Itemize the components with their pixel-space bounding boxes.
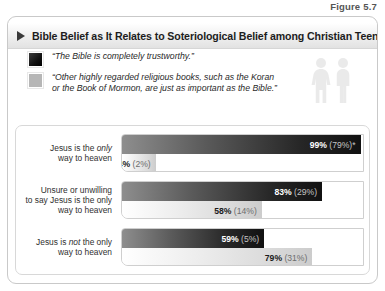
category-label: Jesus is the onlyway to heaven: [16, 143, 112, 163]
figure-caption: Figure 5.7: [330, 1, 377, 12]
triangle-right-icon: [17, 31, 25, 41]
bar-value-primary: 58%: [214, 206, 231, 216]
figure-root: Figure 5.7 Bible Belief as It Relates to…: [0, 0, 385, 291]
bar-value-primary: 79%: [265, 253, 282, 263]
bar-value-primary: 99%: [310, 140, 327, 150]
bar-light: 79% (31%): [122, 248, 312, 266]
bar-light: 58% (14%): [122, 201, 262, 219]
legend-label: “The Bible is completely trustworthy.”: [52, 51, 194, 62]
bar-value-primary: 83%: [274, 187, 291, 197]
bar-value-secondary: (79%)*: [329, 140, 355, 150]
bar-track: 83% (29%) 58% (14%): [121, 181, 364, 219]
chart-panel: Jesus is the onlyway to heaven 99% (79%)…: [15, 125, 370, 275]
bar-dark: 83% (29%): [122, 182, 322, 201]
legend-swatch-dark: [28, 52, 43, 67]
two-people-icon: [307, 57, 359, 105]
figure-card: Bible Belief as It Relates to Soteriolog…: [7, 16, 378, 284]
bar-value-label: 79% (31%): [265, 253, 308, 263]
bar-track: 59% (5%) 79% (31%): [121, 228, 364, 266]
bar-value-label: 14% (2%): [121, 159, 151, 169]
bar-value-label: 58% (14%): [214, 206, 257, 216]
bar-dark: 99% (79%)*: [122, 135, 361, 154]
bar-light: 14% (2%): [122, 154, 156, 172]
page-title: Bible Belief as It Relates to Soteriolog…: [32, 30, 378, 42]
bar-value-secondary: (14%): [234, 206, 257, 216]
legend-item: “Other highly regarded religious books, …: [28, 72, 283, 94]
figure-title-bar: Bible Belief as It Relates to Soteriolog…: [8, 23, 377, 49]
category-label: Unsure or unwillingto say Jesus is the o…: [16, 185, 112, 216]
bar-value-secondary: (29%): [294, 187, 317, 197]
bar-value-primary: 59%: [221, 234, 238, 244]
legend: “The Bible is completely trustworthy.” “…: [28, 51, 283, 99]
bar-dark: 59% (5%): [122, 229, 264, 248]
bar-value-label: 99% (79%)*: [310, 140, 356, 150]
bar-track: 99% (79%)* 14% (2%): [121, 134, 364, 172]
category-label: Jesus is not the onlyway to heaven: [16, 237, 112, 257]
legend-label: “Other highly regarded religious books, …: [52, 72, 283, 94]
legend-item: “The Bible is completely trustworthy.”: [28, 51, 283, 67]
bar-value-secondary: (5%): [241, 234, 259, 244]
bar-value-label: 83% (29%): [274, 187, 317, 197]
bar-value-primary: 14%: [121, 159, 130, 169]
bar-value-secondary: (2%): [133, 159, 151, 169]
bar-value-label: 59% (5%): [221, 234, 259, 244]
bar-value-secondary: (31%): [284, 253, 307, 263]
legend-swatch-light: [28, 73, 43, 88]
